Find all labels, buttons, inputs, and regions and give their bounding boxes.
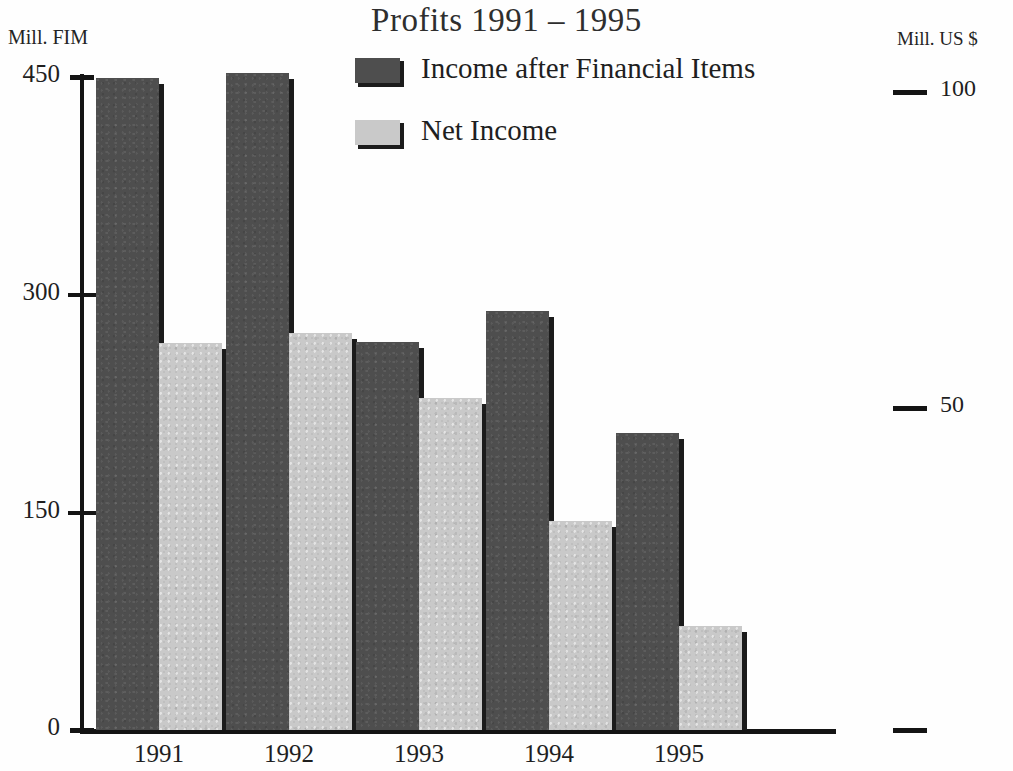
y-axis-tick-mark [68,511,96,515]
bar-face [159,343,222,730]
profits-bar-chart: Profits 1991 – 1995 Mill. FIM Mill. US $… [0,0,1013,771]
y-axis-tick-label: 0 [0,713,60,741]
bar-1995-income-after-financial-items [616,433,679,730]
y-axis-tick-mark [68,293,96,297]
y-axis-tick-label: 150 [0,496,60,524]
bar-face [356,342,419,730]
y-axis-tick-mark [70,728,94,733]
right-axis-tick-label: 50 [940,391,964,418]
bar-face [616,433,679,730]
x-axis-label-1994: 1994 [484,740,614,768]
bar-face [486,311,549,730]
legend-label-primary: Income after Financial Items [421,52,755,85]
dark-swatch-icon [355,58,403,86]
bar-1991-net-income [159,343,222,730]
right-axis-tick-mark [893,406,927,411]
bar-1991-income-after-financial-items [96,78,159,730]
right-axis-tick-mark [893,90,927,95]
bar-face [549,521,612,730]
bar-drop-shadow [742,632,747,730]
left-axis-unit-label: Mill. FIM [8,26,88,49]
y-axis-line [80,74,84,733]
x-axis-label-1992: 1992 [224,740,354,768]
x-axis-label-1991: 1991 [94,740,224,768]
bar-1995-net-income [679,626,742,730]
right-axis-tick-label: 100 [940,75,976,102]
bar-face [289,333,352,730]
bar-face [679,626,742,730]
right-axis-tick-mark [893,728,927,733]
bar-1992-net-income [289,333,352,730]
light-swatch-icon [355,120,403,148]
bar-1992-income-after-financial-items [226,73,289,730]
y-axis-tick-label: 450 [0,60,60,88]
y-axis-tick-label: 300 [0,278,60,306]
chart-title: Profits 1991 – 1995 [0,2,1013,39]
bar-face [419,398,482,730]
bar-1993-income-after-financial-items [356,342,419,730]
y-axis-tick-mark [70,75,94,80]
legend-label-secondary: Net Income [421,114,557,147]
bar-1994-income-after-financial-items [486,311,549,730]
bar-1993-net-income [419,398,482,730]
bar-1994-net-income [549,521,612,730]
bar-face [96,78,159,730]
bar-face [226,73,289,730]
x-axis-label-1993: 1993 [354,740,484,768]
right-axis-unit-label: Mill. US $ [897,28,978,50]
x-axis-label-1995: 1995 [614,740,744,768]
